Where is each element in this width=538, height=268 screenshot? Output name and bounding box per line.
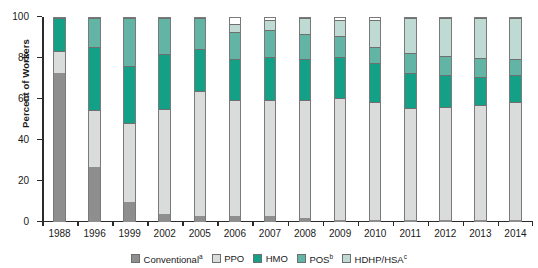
segment-hmo <box>300 59 311 100</box>
x-tick <box>147 222 149 226</box>
segment-pos <box>89 18 100 47</box>
x-tick-label-2002: 2002 <box>154 228 176 239</box>
segment-ppo <box>405 108 416 220</box>
segment-ppo <box>475 105 486 220</box>
segment-ppo <box>159 109 170 214</box>
segment-pos <box>510 59 521 75</box>
x-tick-label-2010: 2010 <box>364 228 386 239</box>
legend-label: PPO <box>224 253 244 264</box>
legend-swatch-icon <box>131 254 140 263</box>
bar-2006[interactable]: 2006 <box>229 17 242 222</box>
segment-hmo <box>265 57 276 100</box>
x-tick-label-1999: 1999 <box>119 228 141 239</box>
legend-swatch-icon <box>342 254 351 263</box>
segment-hmo <box>475 77 486 105</box>
segment-pos <box>300 34 311 58</box>
segment-pos <box>440 56 451 74</box>
x-tick <box>393 222 395 226</box>
x-tick-label-2007: 2007 <box>259 228 281 239</box>
segment-hdhp-hsa <box>475 18 486 58</box>
bar-2011[interactable]: 2011 <box>404 17 417 222</box>
segment-pos <box>475 58 486 76</box>
legend-item-pos[interactable]: POSb <box>297 253 333 265</box>
legend-footnote-marker: c <box>404 253 407 260</box>
y-tick-label: 40 <box>18 133 29 144</box>
segment-ppo <box>510 102 521 220</box>
bar-1999[interactable]: 1999 <box>123 17 136 222</box>
bar-2013[interactable]: 2013 <box>474 17 487 222</box>
legend-item-ppo[interactable]: PPO <box>212 253 245 264</box>
segment-pos <box>124 18 135 66</box>
segment-ppo <box>440 107 451 220</box>
legend-item-conventional[interactable]: Conventionala <box>131 253 203 265</box>
segment-hdhp-hsa <box>370 20 381 47</box>
x-tick <box>182 222 184 226</box>
x-tick-label-2012: 2012 <box>434 228 456 239</box>
segment-conventional <box>370 220 381 222</box>
x-tick <box>532 222 534 226</box>
legend-footnote-marker: b <box>329 253 333 260</box>
y-tick-label: 0 <box>23 215 29 226</box>
legend-item-hmo[interactable]: HMO <box>253 253 288 264</box>
segment-hdhp-hsa <box>405 18 416 53</box>
x-tick <box>358 222 360 226</box>
segment-conventional <box>230 216 241 222</box>
segment-ppo <box>89 110 100 167</box>
segment-hmo <box>54 18 65 51</box>
segment-hmo <box>370 63 381 102</box>
x-tick-label-2013: 2013 <box>469 228 491 239</box>
segment-conventional <box>159 214 170 222</box>
legend-label: POSb <box>309 253 333 265</box>
bar-2007[interactable]: 2007 <box>264 17 277 222</box>
segment-hmo <box>89 47 100 110</box>
segment-pos <box>370 47 381 63</box>
x-tick <box>77 222 79 226</box>
x-tick <box>252 222 254 226</box>
segment-pos <box>405 53 416 73</box>
bar-2014[interactable]: 2014 <box>509 17 522 222</box>
segment-conventional <box>195 216 206 222</box>
x-tick <box>498 222 500 226</box>
x-tick-label-2006: 2006 <box>224 228 246 239</box>
segment-pos <box>265 30 276 57</box>
stacked-bar-chart: Percent of Workers 020406080100 19881996… <box>0 0 538 268</box>
segment-conventional <box>440 220 451 222</box>
segment-hdhp-hsa <box>510 18 521 59</box>
segment-conventional <box>300 218 311 222</box>
segment-hmo <box>405 73 416 108</box>
bar-2009[interactable]: 2009 <box>334 17 347 222</box>
segment-hmo <box>335 57 346 98</box>
chart-legend: ConventionalaPPOHMOPOSbHDHP/HSAc <box>0 253 538 265</box>
bar-1988[interactable]: 1988 <box>53 17 66 222</box>
bar-2012[interactable]: 2012 <box>439 17 452 222</box>
segment-hdhp-hsa <box>335 20 346 36</box>
segment-conventional <box>89 167 100 222</box>
segment-hmo <box>230 59 241 100</box>
x-tick <box>42 222 44 226</box>
legend-footnote-marker: a <box>199 253 203 260</box>
x-tick-label-2009: 2009 <box>329 228 351 239</box>
segment-hmo <box>159 54 170 109</box>
x-tick-label-2005: 2005 <box>189 228 211 239</box>
y-tick-label: 20 <box>18 174 29 185</box>
legend-item-hdhp-hsa[interactable]: HDHP/HSAc <box>342 253 407 265</box>
x-tick-label-1996: 1996 <box>83 228 105 239</box>
x-tick-label-2014: 2014 <box>504 228 526 239</box>
bar-1996[interactable]: 1996 <box>88 17 101 222</box>
segment-ppo <box>230 100 241 216</box>
segment-hmo <box>195 49 206 92</box>
bar-2008[interactable]: 2008 <box>299 17 312 222</box>
segment-pos <box>335 36 346 56</box>
segment-ppo <box>195 91 206 215</box>
segment-conventional <box>475 220 486 222</box>
x-tick-label-1988: 1988 <box>48 228 70 239</box>
legend-label: HMO <box>266 253 288 264</box>
bar-2002[interactable]: 2002 <box>158 17 171 222</box>
x-tick <box>323 222 325 226</box>
segment-hdhp-hsa <box>440 18 451 56</box>
bar-2005[interactable]: 2005 <box>194 17 207 222</box>
bar-2010[interactable]: 2010 <box>369 17 382 222</box>
bar-group: 1988199619992002200520062007200820092010… <box>42 17 533 222</box>
segment-hdhp-hsa <box>230 24 241 32</box>
segment-ppo <box>335 98 346 220</box>
